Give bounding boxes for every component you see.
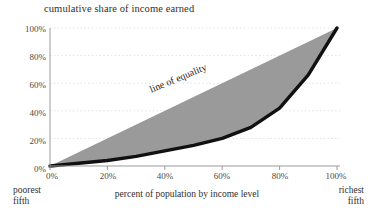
poorest-fifth-label: poorest fifth [13, 185, 41, 207]
lorenz-curve-chart: cumulative share of income earned 100% 8… [0, 0, 374, 212]
y-tick-label-20: 20% [4, 136, 46, 146]
y-tick-label-60: 60% [4, 80, 46, 90]
y-tick-label-100: 100% [4, 24, 46, 34]
x-tick-label-0: 0% [46, 171, 58, 181]
richest-fifth-line-2: fifth [339, 196, 364, 207]
chart-title: cumulative share of income earned [44, 3, 194, 14]
y-tick-label-40: 40% [4, 108, 46, 118]
x-tick-label-100: 100% [326, 171, 347, 181]
x-tick-label-80: 80% [272, 171, 289, 181]
y-axis-tick-labels: 100% 80% 60% 40% 20% 0% [0, 0, 46, 212]
poorest-fifth-line-1: poorest [13, 185, 41, 196]
richest-fifth-label: richest fifth [339, 185, 364, 207]
x-tick-label-40: 40% [157, 171, 174, 181]
x-tick-label-20: 20% [100, 171, 117, 181]
y-tick-label-0: 0% [4, 164, 46, 174]
poorest-fifth-line-2: fifth [13, 196, 41, 207]
richest-fifth-line-1: richest [339, 185, 364, 196]
x-tick-label-60: 60% [214, 171, 231, 181]
y-tick-label-80: 80% [4, 52, 46, 62]
x-axis-ticks [50, 166, 337, 170]
x-axis-caption: percent of population by income level [115, 189, 259, 199]
